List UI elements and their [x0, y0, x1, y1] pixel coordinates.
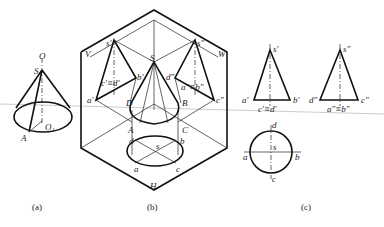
figure-c-three-views: s′ a′ b′ c′≡d′ s″ d″ c″ a″≡b″ d a b c s …	[242, 44, 369, 212]
label-A: A	[20, 133, 27, 143]
label-s-dprime: s″	[197, 38, 205, 48]
front-view-triangle	[254, 50, 290, 100]
label-a: a	[134, 164, 139, 174]
label-V: V	[85, 49, 92, 59]
side-view-triangle	[320, 50, 358, 100]
label-S: S	[34, 66, 39, 76]
label-c-d-dprime: d″	[309, 95, 318, 105]
label-b-prime: b′	[137, 72, 145, 82]
label-c-d: d	[272, 120, 277, 130]
label-A-b: A	[127, 125, 134, 135]
label-c-b: b	[295, 152, 300, 162]
label-c-cd-prime: c′≡d′	[258, 104, 278, 114]
caption-b: (b)	[147, 202, 158, 212]
w-plane-top	[154, 20, 218, 57]
label-c: c	[176, 164, 180, 174]
label-a-prime: a′	[87, 95, 95, 105]
caption-a: (a)	[32, 202, 42, 212]
label-O1: O₁	[45, 122, 55, 132]
label-O: O	[39, 51, 46, 61]
label-s: s	[156, 141, 160, 151]
label-c-dprime: c″	[216, 95, 224, 105]
label-d: d	[129, 136, 134, 146]
label-c-c: c	[272, 174, 276, 184]
label-D: D	[125, 98, 133, 108]
label-c-c-dprime: c″	[361, 95, 369, 105]
caption-c: (c)	[301, 202, 311, 212]
cone-base	[14, 102, 72, 132]
label-d-dprime: d″	[166, 72, 175, 82]
label-ab-dprime: a″≡b″	[181, 82, 204, 92]
label-c-s: s	[273, 142, 277, 152]
label-c-s-dprime: s″	[343, 44, 351, 54]
label-c-ab-dprime: a″≡b″	[327, 104, 350, 114]
cone-projection-diagram: O S A O₁ (a)	[0, 0, 384, 227]
label-cd-prime: c′≡d′	[101, 78, 121, 88]
label-c-a-prime: a′	[242, 95, 250, 105]
label-C: C	[182, 125, 189, 135]
label-B: B	[182, 98, 188, 108]
label-c-b-prime: b′	[293, 95, 301, 105]
v-plane-top	[90, 20, 154, 57]
label-H: H	[149, 181, 157, 191]
label-c-a: a	[243, 152, 248, 162]
figure-b-projection-box: V W H S s′ a′ b′ c′≡d′ s″ d″ c″ a″≡b″ D …	[81, 10, 227, 212]
label-S-b: S	[150, 53, 155, 63]
figure-a-cone: O S A O₁ (a)	[14, 51, 72, 212]
label-b: b	[180, 136, 185, 146]
label-c-s-prime: s′	[273, 44, 280, 54]
